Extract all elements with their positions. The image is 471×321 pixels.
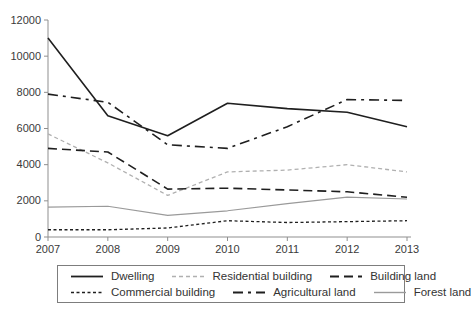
legend-item-forest-land: Forest land <box>373 286 471 298</box>
series-residential-building <box>48 134 407 195</box>
legend-item-commercial-building: Commercial building <box>70 286 215 298</box>
legend-label: Commercial building <box>111 286 215 298</box>
agricultural-land-line-sample-icon <box>232 288 266 297</box>
series-agricultural-land <box>48 94 407 148</box>
legend-label: Residential building <box>212 270 312 282</box>
commercial-building-line-sample-icon <box>70 288 104 297</box>
y-tick-label: 6000 <box>17 122 41 134</box>
legend-row: Commercial buildingAgricultural landFore… <box>70 284 404 300</box>
y-tick-label: 10000 <box>10 50 41 62</box>
y-tick-label: 0 <box>35 231 41 243</box>
legend-label: Dwelling <box>111 270 154 282</box>
y-tick-label: 8000 <box>17 86 41 98</box>
x-tick-label: 2009 <box>155 243 179 255</box>
legend-label: Agricultural land <box>273 286 355 298</box>
residential-building-line-sample-icon <box>171 272 205 281</box>
legend-label: Forest land <box>414 286 471 298</box>
y-tick-label: 2000 <box>17 194 41 206</box>
x-tick-label: 2013 <box>395 243 419 255</box>
dwelling-line-sample-icon <box>70 272 104 281</box>
building-land-line-sample-icon <box>329 272 363 281</box>
legend-item-dwelling: Dwelling <box>70 270 154 282</box>
y-tick-label: 4000 <box>17 158 41 170</box>
forest-land-line-sample-icon <box>373 288 407 297</box>
series-building-land <box>48 148 407 197</box>
series-commercial-building <box>48 221 407 230</box>
x-tick-label: 2010 <box>215 243 239 255</box>
series-dwelling <box>48 38 407 136</box>
x-tick-label: 2008 <box>96 243 120 255</box>
x-tick-label: 2007 <box>36 243 60 255</box>
legend-item-building-land: Building land <box>329 270 436 282</box>
legend-label: Building land <box>370 270 436 282</box>
legend: DwellingResidential buildingBuilding lan… <box>57 265 405 303</box>
legend-item-agricultural-land: Agricultural land <box>232 286 355 298</box>
series-forest-land <box>48 197 407 215</box>
y-tick-label: 12000 <box>10 14 41 26</box>
x-tick-label: 2012 <box>335 243 359 255</box>
line-chart: 0200040006000800010000120002007200820092… <box>0 0 431 262</box>
x-tick-label: 2011 <box>276 243 300 255</box>
legend-row: DwellingResidential buildingBuilding lan… <box>70 268 404 284</box>
legend-item-residential-building: Residential building <box>171 270 312 282</box>
